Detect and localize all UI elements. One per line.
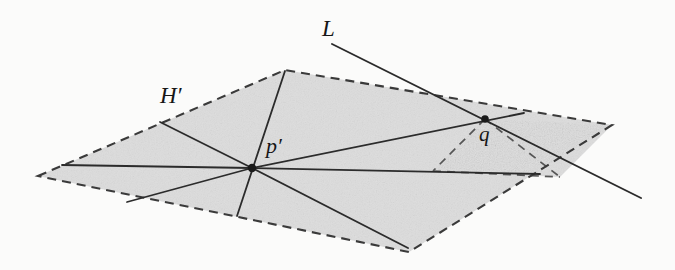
figure-canvas: L H′ p′ q xyxy=(0,0,675,270)
plane-fills xyxy=(0,0,675,270)
label-line-L: L xyxy=(322,17,335,40)
point-p-prime-dot xyxy=(248,164,256,172)
label-point-q: q xyxy=(479,124,490,145)
label-plane-h-prime-text: H′ xyxy=(160,83,182,108)
label-point-p-prime: p′ xyxy=(266,135,282,157)
label-point-p-prime-text: p′ xyxy=(266,133,282,158)
label-plane-h-prime: H′ xyxy=(160,84,182,107)
geometry-diagram xyxy=(0,0,675,270)
